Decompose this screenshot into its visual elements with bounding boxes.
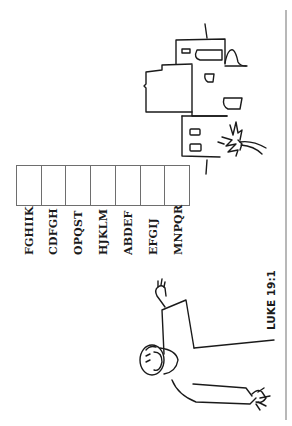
- reference-label: LUKE 19:1: [266, 270, 277, 330]
- clue-7: MNPQR: [171, 214, 185, 266]
- answer-box-1[interactable]: [17, 166, 42, 205]
- clue-3: OPQST: [71, 214, 85, 266]
- scripture-reference: LUKE 19:1: [265, 270, 277, 340]
- answer-box-6[interactable]: [141, 166, 166, 205]
- clue-letters: HJKLM: [98, 209, 109, 255]
- clue-4: HJKLM: [96, 214, 110, 266]
- clue-1: FGHIIK: [22, 214, 36, 266]
- clue-letters: FGHIIK: [24, 206, 35, 255]
- worksheet-page: FGHIIK CDFGH OPQST HJKLM ABDEF EFGIJ MNP…: [0, 0, 292, 426]
- palm-tree-icon: [218, 122, 266, 156]
- clue-2: CDFGH: [46, 214, 60, 266]
- buildings-illustration: [144, 24, 266, 174]
- clue-letters: CDFGH: [48, 208, 59, 255]
- answer-box-7[interactable]: [165, 166, 189, 205]
- clue-letters: MNPQR: [173, 205, 184, 255]
- clue-6: EFGIJ: [146, 214, 160, 266]
- answer-box-5[interactable]: [116, 166, 141, 205]
- illustration-layer: [0, 0, 292, 426]
- answer-box-2[interactable]: [42, 166, 67, 205]
- window-icon: [182, 49, 190, 53]
- clue-letters: EFGIJ: [148, 218, 159, 255]
- answer-box-4[interactable]: [91, 166, 116, 205]
- head-icon: [140, 345, 164, 375]
- man-waving-illustration: [140, 279, 274, 410]
- clue-5: ABDEF: [121, 214, 135, 266]
- clue-letters: ABDEF: [123, 210, 134, 255]
- page-edge-divider: [285, 10, 287, 420]
- answer-boxes-row: [16, 165, 190, 206]
- answer-box-3[interactable]: [66, 166, 91, 205]
- clue-letters: OPQST: [73, 210, 84, 255]
